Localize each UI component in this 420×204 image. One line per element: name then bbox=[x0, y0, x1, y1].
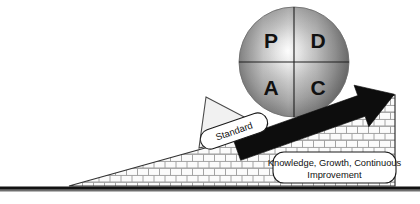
pdca-wheel: P D A C bbox=[239, 7, 349, 117]
diagram-canvas: P D A C Standard Knowledge, Growth, Cont… bbox=[0, 0, 420, 204]
outcome-callout-line1: Knowledge, Growth, Continuous bbox=[268, 158, 402, 168]
outcome-callout-line2: Improvement bbox=[307, 170, 362, 180]
sphere-quadrant-do: D bbox=[310, 29, 325, 52]
sphere-quadrant-act: A bbox=[263, 76, 278, 99]
sphere-quadrant-plan: P bbox=[264, 29, 278, 52]
sphere-quadrant-check: C bbox=[310, 76, 325, 99]
pdca-improvement-diagram: P D A C Standard Knowledge, Growth, Cont… bbox=[0, 0, 420, 204]
outcome-callout: Knowledge, Growth, Continuous Improvemen… bbox=[268, 152, 402, 183]
ground-line bbox=[0, 187, 420, 192]
